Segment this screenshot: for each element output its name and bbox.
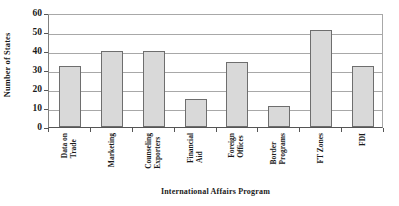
bar — [352, 66, 374, 127]
x-axis-tick-label: BorderPrograms — [257, 133, 299, 185]
x-axis-tick-mark — [132, 128, 133, 132]
bar-slot — [133, 15, 175, 127]
x-axis-tick-label-text: ForeignOffices — [227, 133, 245, 158]
bar-slot — [258, 15, 300, 127]
plot-area — [48, 14, 383, 128]
y-axis-tick-label: 20 — [16, 85, 42, 95]
x-axis-tick-label: ForeignOffices — [216, 133, 258, 185]
y-axis-title: Number of States — [0, 0, 14, 130]
x-axis-tick-label: Marketing — [90, 133, 132, 185]
bar-chart: Number of States 6050403020100 Data onTr… — [0, 0, 399, 206]
y-axis-tick-mark — [44, 71, 48, 72]
bar-slot — [342, 15, 384, 127]
x-axis-tick-label: FinancialAid — [174, 133, 216, 185]
y-axis-tick-label: 60 — [16, 9, 42, 19]
x-axis-tick-label-text: FT Zones — [316, 133, 325, 164]
y-axis-tick-label: 30 — [16, 66, 42, 76]
y-axis-tick-mark — [44, 14, 48, 15]
bar-slot — [91, 15, 133, 127]
y-axis-tick-label: 10 — [16, 104, 42, 114]
bar — [143, 51, 165, 127]
y-axis-tick-mark — [44, 33, 48, 34]
x-axis-tick-label: Data onTrade — [48, 133, 90, 185]
x-axis-tick-label-text: BorderPrograms — [269, 133, 287, 165]
x-axis-tick-label-text: FinancialAid — [186, 133, 204, 163]
bar — [59, 66, 81, 127]
x-axis-tick-mark — [299, 128, 300, 132]
x-axis-tick-mark — [341, 128, 342, 132]
y-axis-tick-labels: 6050403020100 — [16, 8, 42, 130]
y-axis-tick-label: 0 — [16, 123, 42, 133]
bar-slot — [49, 15, 91, 127]
x-axis-tick-mark — [90, 128, 91, 132]
x-axis-tick-mark — [48, 128, 49, 132]
x-axis-tick-label-text: Data onTrade — [60, 133, 78, 158]
x-axis-tick-label: CounselingExporters — [132, 133, 174, 185]
x-axis-tick-label: FT Zones — [299, 133, 341, 185]
bar — [185, 99, 207, 128]
y-axis-tick-mark — [44, 109, 48, 110]
y-axis-tick-mark — [44, 52, 48, 53]
bar — [268, 106, 290, 127]
y-axis-title-text: Number of States — [2, 33, 12, 98]
bar-series — [49, 15, 382, 127]
y-axis-tick-label: 50 — [16, 28, 42, 38]
x-axis-tick-labels: Data onTradeMarketingCounselingExporters… — [48, 133, 383, 185]
bar — [310, 30, 332, 127]
bar-slot — [217, 15, 259, 127]
bar — [101, 51, 123, 127]
x-axis-tick-mark — [383, 128, 384, 132]
x-axis-tick-label-text: Marketing — [106, 133, 115, 167]
bar-slot — [300, 15, 342, 127]
x-axis-tick-mark — [257, 128, 258, 132]
x-axis-title: International Affairs Program — [48, 187, 383, 196]
x-axis-tick-mark — [174, 128, 175, 132]
bar-slot — [175, 15, 217, 127]
x-axis-tick-mark — [216, 128, 217, 132]
y-axis-tick-label: 40 — [16, 47, 42, 57]
y-axis-tick-mark — [44, 90, 48, 91]
bar — [226, 62, 248, 127]
x-axis-tick-label: FDI — [341, 133, 383, 185]
x-axis-tick-label-text: CounselingExporters — [144, 133, 162, 169]
x-axis-tick-label-text: FDI — [358, 133, 367, 146]
